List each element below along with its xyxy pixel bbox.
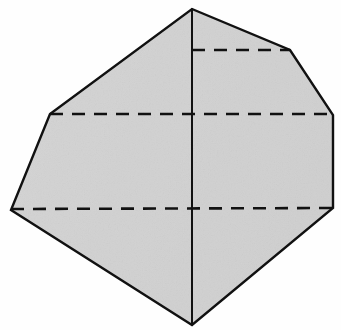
figure-canvas [0,0,341,330]
polyhedron-diagram [0,0,341,330]
lower-hidden-edge [11,208,333,209]
